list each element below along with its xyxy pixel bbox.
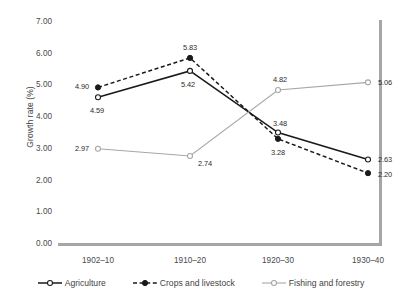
data-point-marker xyxy=(275,136,280,141)
series-fishing-and-forestry xyxy=(96,80,371,159)
series-crops-and-livestock xyxy=(95,55,370,175)
series-line xyxy=(98,71,368,160)
legend-label: Crops and livestock xyxy=(160,278,235,288)
data-point-marker xyxy=(365,171,370,176)
data-point-label: 3.28 xyxy=(271,147,285,156)
legend-item-agriculture[interactable]: Agriculture xyxy=(37,278,106,288)
data-point-label: 3.48 xyxy=(273,118,287,127)
data-point-marker xyxy=(276,130,281,135)
data-point-label: 4.82 xyxy=(273,74,287,83)
legend-item-fishing-and-forestry[interactable]: Fishing and forestry xyxy=(261,278,364,288)
data-point-label: 2.97 xyxy=(75,143,89,152)
data-point-label: 4.90 xyxy=(75,82,89,91)
data-point-marker xyxy=(95,85,100,90)
data-point-marker xyxy=(366,157,371,162)
data-point-label: 5.06 xyxy=(378,78,392,87)
data-point-marker xyxy=(96,95,101,100)
data-point-marker xyxy=(276,87,281,92)
data-point-label: 5.42 xyxy=(181,79,195,88)
series-line xyxy=(98,58,368,173)
series-line xyxy=(98,82,368,156)
data-point-label: 5.83 xyxy=(183,42,197,51)
legend-marker-icon xyxy=(261,278,287,288)
legend-item-crops-and-livestock[interactable]: Crops and livestock xyxy=(132,278,235,288)
data-point-label: 2.74 xyxy=(198,159,212,168)
legend-marker-icon xyxy=(37,278,63,288)
data-point-label: 4.59 xyxy=(90,106,104,115)
legend-marker-icon xyxy=(132,278,158,288)
data-point-label: 2.20 xyxy=(378,170,392,179)
data-point-marker xyxy=(366,80,371,85)
plot-series-area xyxy=(0,0,401,303)
chart-legend: AgricultureCrops and livestockFishing an… xyxy=(0,278,401,288)
data-point-label: 2.63 xyxy=(378,155,392,164)
series-agriculture xyxy=(96,68,371,162)
growth-rate-line-chart: Growth rate (%) 7.006.005.004.003.002.00… xyxy=(0,0,401,303)
data-point-marker xyxy=(187,55,192,60)
data-point-marker xyxy=(188,68,193,73)
legend-label: Agriculture xyxy=(65,278,106,288)
data-point-marker xyxy=(96,146,101,151)
data-point-marker xyxy=(188,154,193,159)
legend-label: Fishing and forestry xyxy=(289,278,364,288)
